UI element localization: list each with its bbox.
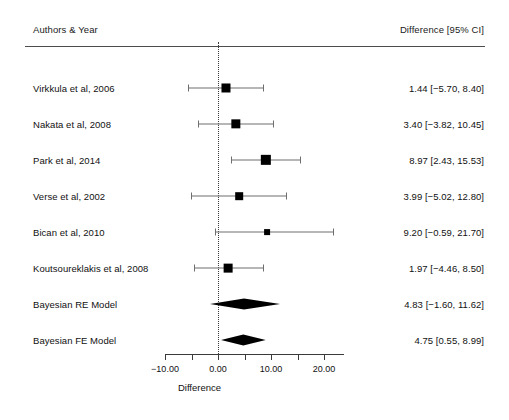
forest-row: Bican et al, 20109.20 [−0.59, 21.70]: [0, 217, 509, 247]
summary-diamond: [221, 332, 266, 348]
confidence-interval-line: [215, 232, 333, 233]
ci-cap-upper: [333, 229, 334, 236]
summary-diamond: [210, 296, 280, 312]
axis-title: Difference: [0, 382, 509, 393]
row-graphic: [0, 181, 509, 211]
ci-cap-upper: [263, 265, 264, 272]
axis-tick-label: 10.00: [260, 364, 283, 374]
forest-row: Bayesian RE Model4.83 [−1.60, 11.62]: [0, 289, 509, 319]
ci-cap-lower: [188, 85, 189, 92]
axis-tick: [271, 354, 272, 360]
axis-tick: [192, 354, 193, 360]
axis-tick: [245, 354, 246, 360]
row-graphic: [0, 73, 509, 103]
axis-tick-label: 20.00: [313, 364, 336, 374]
axis-title-text: Difference: [178, 382, 221, 393]
axis-tick: [324, 354, 325, 360]
axis-tick-label: −10.00: [151, 364, 179, 374]
ci-cap-lower: [198, 121, 199, 128]
ci-cap-lower: [215, 229, 216, 236]
study-effect-marker: [264, 229, 270, 235]
row-graphic: [0, 289, 509, 319]
ci-cap-upper: [300, 157, 301, 164]
ci-cap-upper: [273, 121, 274, 128]
forest-row: Virkkula et al, 20061.44 [−5.70, 8.40]: [0, 73, 509, 103]
ci-cap-lower: [231, 157, 232, 164]
row-graphic: [0, 325, 509, 355]
axis-tick: [298, 354, 299, 360]
row-graphic: [0, 145, 509, 175]
study-effect-marker: [224, 264, 233, 273]
column-header-authors: Authors & Year: [33, 24, 98, 35]
forest-row: Nakata et al, 20083.40 [−3.82, 10.45]: [0, 109, 509, 139]
row-graphic: [0, 253, 509, 283]
study-effect-marker: [235, 192, 243, 200]
axis-tick-label: 0.00: [209, 364, 227, 374]
study-effect-marker: [221, 83, 230, 92]
forest-row: Park et al, 20148.97 [2.43, 15.53]: [0, 145, 509, 175]
forest-row: Verse et al, 20023.99 [−5.02, 12.80]: [0, 181, 509, 211]
axis-tick: [165, 354, 166, 360]
column-header-difference-ci: Difference [95% CI]: [400, 24, 484, 35]
forest-row: Koutsoureklakis et al, 20081.97 [−4.46, …: [0, 253, 509, 283]
row-graphic: [0, 217, 509, 247]
header-divider: [25, 46, 485, 47]
forest-plot: Authors & Year Difference [95% CI] Virkk…: [0, 0, 509, 420]
ci-cap-lower: [191, 193, 192, 200]
axis-tick: [218, 354, 219, 360]
x-axis: −10.000.0010.0020.00 Difference: [0, 354, 509, 420]
ci-cap-upper: [286, 193, 287, 200]
row-graphic: [0, 109, 509, 139]
study-effect-marker: [260, 155, 270, 165]
forest-row: Bayesian FE Model4.75 [0.55, 8.99]: [0, 325, 509, 355]
ci-cap-lower: [194, 265, 195, 272]
ci-cap-upper: [263, 85, 264, 92]
study-effect-marker: [231, 119, 240, 128]
